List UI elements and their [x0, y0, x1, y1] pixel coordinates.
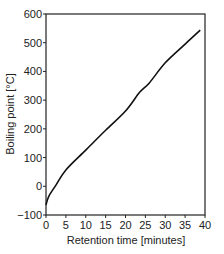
- x-tick-label: 5: [63, 219, 69, 231]
- x-tick-label: 35: [179, 219, 191, 231]
- data-line: [46, 30, 200, 205]
- x-tick-label: 30: [159, 219, 171, 231]
- y-tick-label: 400: [24, 65, 42, 77]
- y-axis-title: Boiling point [°C]: [4, 73, 16, 154]
- y-axis-ticks: −1000100200300400500600: [17, 8, 46, 221]
- x-tick-label: 15: [100, 219, 112, 231]
- x-axis-ticks: 0510152025303540: [43, 215, 211, 231]
- y-tick-label: 500: [24, 37, 42, 49]
- x-tick-label: 25: [139, 219, 151, 231]
- chart: −1000100200300400500600 0510152025303540…: [0, 0, 224, 254]
- y-tick-label: 0: [36, 180, 42, 192]
- x-tick-label: 10: [80, 219, 92, 231]
- y-tick-label: 200: [24, 123, 42, 135]
- x-tick-label: 0: [43, 219, 49, 231]
- y-tick-label: 100: [24, 152, 42, 164]
- plot-frame: [46, 14, 205, 215]
- y-tick-label: 600: [24, 8, 42, 20]
- x-tick-label: 40: [199, 219, 211, 231]
- y-tick-label: 300: [24, 94, 42, 106]
- x-axis-title: Retention time [minutes]: [67, 234, 186, 246]
- x-tick-label: 20: [119, 219, 131, 231]
- y-tick-label: −100: [17, 209, 42, 221]
